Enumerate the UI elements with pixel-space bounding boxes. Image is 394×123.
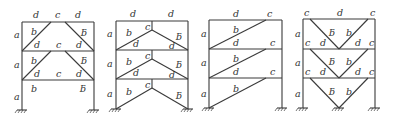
frame-3: dc ab dc ab dc ab [201, 8, 287, 111]
svg-text:d: d [355, 37, 361, 48]
svg-text:a: a [201, 88, 207, 99]
svg-text:d: d [169, 69, 175, 80]
svg-text:ƃ: ƃ [80, 27, 87, 38]
fixed-support-icon [87, 110, 99, 113]
svg-text:d: d [130, 8, 136, 19]
fixed-support-icon [109, 109, 121, 112]
svg-text:b: b [346, 56, 352, 67]
svg-text:b: b [31, 26, 37, 37]
svg-text:b: b [233, 83, 239, 94]
svg-text:c: c [145, 79, 151, 90]
fixed-support-icon [368, 108, 380, 111]
svg-text:b: b [233, 24, 239, 35]
svg-text:d: d [76, 39, 82, 50]
svg-text:c: c [304, 7, 310, 18]
svg-text:a: a [107, 28, 113, 39]
fixed-support-icon [296, 108, 308, 111]
svg-text:d: d [233, 8, 239, 19]
svg-text:ƃ: ƃ [80, 55, 87, 66]
fixed-support-icon [332, 108, 344, 111]
svg-text:d: d [168, 8, 174, 19]
svg-text:ƃ: ƃ [328, 56, 335, 67]
svg-text:a: a [201, 57, 207, 68]
svg-text:c: c [56, 39, 62, 50]
svg-text:d: d [320, 66, 326, 77]
svg-text:a: a [295, 28, 301, 39]
fixed-support-icon [202, 108, 214, 111]
svg-text:ƃ: ƃ [175, 90, 182, 101]
svg-text:b: b [31, 55, 37, 66]
svg-text:c: c [267, 8, 273, 19]
svg-text:a: a [201, 28, 207, 39]
svg-text:c: c [305, 37, 311, 48]
svg-text:d: d [169, 40, 175, 51]
frame-1: dcd abƃ dcd abƃ dcd abƃ [14, 9, 99, 113]
fixed-support-icon [181, 109, 193, 112]
svg-text:d: d [34, 68, 40, 79]
svg-text:b: b [126, 27, 132, 38]
fixed-support-icon [275, 108, 287, 111]
svg-text:a: a [295, 88, 301, 99]
svg-text:ƃ: ƃ [175, 59, 182, 70]
svg-text:b: b [346, 86, 352, 97]
svg-text:d: d [337, 7, 343, 18]
svg-text:b: b [126, 86, 132, 97]
svg-text:d: d [133, 67, 139, 78]
svg-text:ƃ: ƃ [328, 86, 335, 97]
svg-text:d: d [320, 37, 326, 48]
svg-text:c: c [270, 66, 276, 77]
braced-frames-diagram: dcd abƃ dcd abƃ dcd abƃ dd abcƃ dd abcƃ [0, 0, 394, 123]
svg-text:c: c [369, 66, 375, 77]
svg-text:d: d [33, 9, 39, 20]
svg-text:a: a [14, 59, 20, 70]
svg-text:d: d [34, 39, 40, 50]
svg-text:b: b [126, 56, 132, 67]
svg-text:c: c [145, 50, 151, 61]
svg-text:a: a [14, 91, 20, 102]
svg-text:c: c [370, 7, 376, 18]
svg-text:b: b [233, 53, 239, 64]
svg-text:c: c [145, 21, 151, 32]
svg-text:a: a [295, 57, 301, 68]
svg-text:c: c [56, 68, 62, 79]
svg-text:d: d [75, 9, 81, 20]
svg-text:d: d [355, 66, 361, 77]
svg-text:c: c [305, 66, 311, 77]
svg-text:c: c [270, 37, 276, 48]
svg-text:a: a [107, 58, 113, 69]
svg-text:d: d [76, 68, 82, 79]
frame-2: dd abcƃ dd abcƃ dd abcƃ [107, 8, 193, 112]
svg-text:ƃ: ƃ [175, 31, 182, 42]
svg-text:b: b [346, 27, 352, 38]
svg-text:ƃ: ƃ [328, 27, 335, 38]
svg-text:d: d [233, 66, 239, 77]
svg-text:c: c [369, 37, 375, 48]
svg-text:d: d [233, 37, 239, 48]
svg-text:d: d [133, 38, 139, 49]
frame-4: cdc aƃb cddc aƃb cddc aƃb [295, 7, 380, 111]
svg-text:a: a [107, 88, 113, 99]
svg-text:a: a [14, 29, 20, 40]
svg-text:b: b [31, 83, 37, 94]
fixed-support-icon [15, 110, 27, 113]
svg-text:c: c [55, 9, 61, 20]
svg-text:ƃ: ƃ [79, 83, 86, 94]
